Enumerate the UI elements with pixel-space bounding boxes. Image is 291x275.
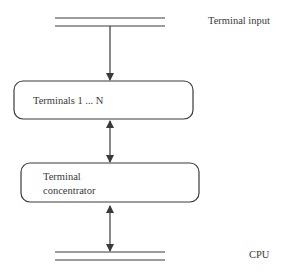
terminal-input-bus: [55, 18, 165, 26]
cpu-bus: [55, 252, 165, 260]
concentrator-label-line2: concentrator: [43, 185, 95, 197]
terminal-input-label: Terminal input: [208, 15, 270, 27]
diagram-canvas: [0, 0, 291, 275]
terminals-box-label: Terminals 1 ... N: [33, 95, 103, 107]
cpu-label: CPU: [249, 249, 269, 261]
concentrator-label-line1: Terminal: [43, 171, 81, 183]
